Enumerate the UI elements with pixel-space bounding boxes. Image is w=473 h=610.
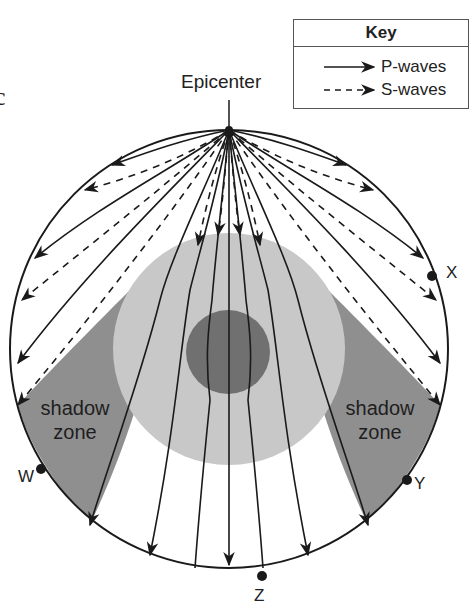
legend-key: Key P-waves S-waves xyxy=(293,19,469,109)
epicenter-label: Epicenter xyxy=(181,71,261,93)
point-y xyxy=(402,475,412,485)
point-z xyxy=(257,571,267,581)
point-w-label: W xyxy=(18,467,34,487)
shadow-zone-right-line2: zone xyxy=(335,420,425,444)
legend-s-waves: S-waves xyxy=(381,80,446,100)
point-z-label: Z xyxy=(254,586,264,606)
shadow-zone-right-label: shadow zone xyxy=(335,396,425,444)
shadow-zone-left-line1: shadow xyxy=(30,396,120,420)
point-x-label: X xyxy=(446,263,457,283)
legend-p-waves: P-waves xyxy=(381,57,446,77)
shadow-zone-left-line2: zone xyxy=(30,420,120,444)
point-w xyxy=(36,464,46,474)
shadow-zone-left-label: shadow zone xyxy=(30,396,120,444)
shadow-zone-right-line1: shadow xyxy=(335,396,425,420)
inner-core xyxy=(186,310,270,394)
point-x xyxy=(427,271,437,281)
point-y-label: Y xyxy=(414,474,425,494)
